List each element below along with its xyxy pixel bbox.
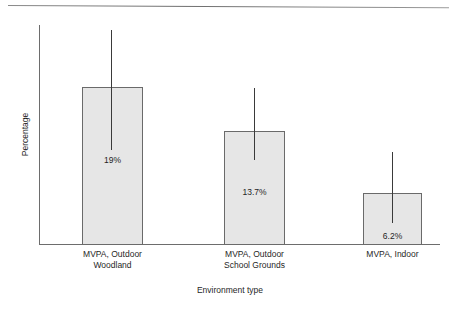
x-tick-label-mvpa-indoor: MVPA, Indoor	[337, 249, 448, 260]
y-axis-line	[39, 25, 40, 245]
plot-area: 19% MVPA, Outdoor Woodland 13.7% MVPA, O…	[0, 0, 453, 312]
bar-value-mvpa-outdoor-school-grounds: 13.7%	[224, 187, 285, 197]
x-tick-label-mvpa-outdoor-school-grounds: MVPA, Outdoor School Grounds	[199, 249, 310, 271]
chart-figure: 19% MVPA, Outdoor Woodland 13.7% MVPA, O…	[0, 0, 453, 312]
x-axis-title: Environment type	[155, 285, 305, 296]
error-bar-mvpa-outdoor-school-grounds	[254, 88, 255, 160]
error-bar-mvpa-indoor	[392, 152, 393, 223]
bar-value-mvpa-indoor: 6.2%	[363, 231, 422, 241]
y-axis-title: Percentage	[20, 105, 31, 165]
bar-mvpa-outdoor-woodland	[82, 87, 143, 245]
error-bar-mvpa-outdoor-woodland	[111, 30, 112, 150]
x-tick-label-mvpa-outdoor-woodland: MVPA, Outdoor Woodland	[57, 249, 168, 271]
bar-value-mvpa-outdoor-woodland: 19%	[82, 155, 143, 165]
